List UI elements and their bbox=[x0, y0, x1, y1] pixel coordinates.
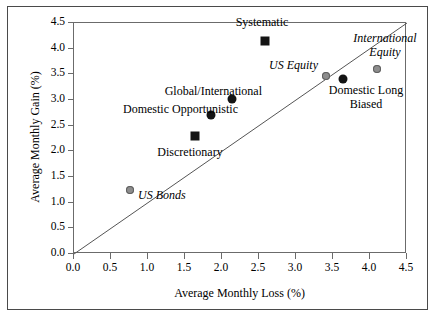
x-axis-title: Average Monthly Loss (%) bbox=[73, 286, 406, 300]
label-international-equity-line1: International bbox=[353, 32, 416, 46]
x-axis-tick-label: 3.5 bbox=[312, 262, 352, 274]
data-point-marker bbox=[126, 186, 134, 194]
data-point-marker bbox=[260, 37, 269, 46]
data-point-marker bbox=[191, 132, 200, 141]
x-axis-tick-label: 3.0 bbox=[275, 262, 315, 274]
x-axis-tick-label: 2.5 bbox=[238, 262, 278, 274]
label-systematic: Systematic bbox=[236, 16, 289, 30]
y-axis-title: Average Monthly Gain (%) bbox=[28, 17, 42, 257]
label-us-equity: US Equity bbox=[269, 59, 318, 73]
data-point-marker bbox=[322, 72, 330, 80]
label-discretionary: Discretionary bbox=[157, 146, 222, 160]
x-axis-tick-label: 1.5 bbox=[164, 262, 204, 274]
x-axis-tick-label: 2.0 bbox=[201, 262, 241, 274]
label-global-international: Global/International bbox=[165, 85, 262, 99]
label-international-equity-line2: Equity bbox=[369, 46, 400, 60]
x-axis-tick-label: 0.0 bbox=[53, 262, 93, 274]
label-domestic-long-biased-line1: Domestic Long bbox=[329, 84, 403, 98]
label-domestic-opportunistic: Domestic Opportunistic bbox=[123, 103, 238, 117]
plot-canvas bbox=[74, 23, 407, 254]
label-us-bonds: US Bonds bbox=[138, 189, 186, 203]
x-axis-tick-label: 4.0 bbox=[349, 262, 389, 274]
label-domestic-long-biased-line2: Biased bbox=[350, 98, 383, 112]
x-axis-tick-label: 0.5 bbox=[90, 262, 130, 274]
x-axis-tick-label: 4.5 bbox=[386, 262, 426, 274]
plot-area bbox=[73, 22, 406, 253]
data-point-marker bbox=[373, 65, 381, 73]
scatter-chart-figure: 0.00.51.01.52.02.53.03.54.04.5 0.00.51.0… bbox=[0, 0, 435, 320]
x-axis-tick-label: 1.0 bbox=[127, 262, 167, 274]
45-degree-reference-line bbox=[74, 23, 407, 254]
